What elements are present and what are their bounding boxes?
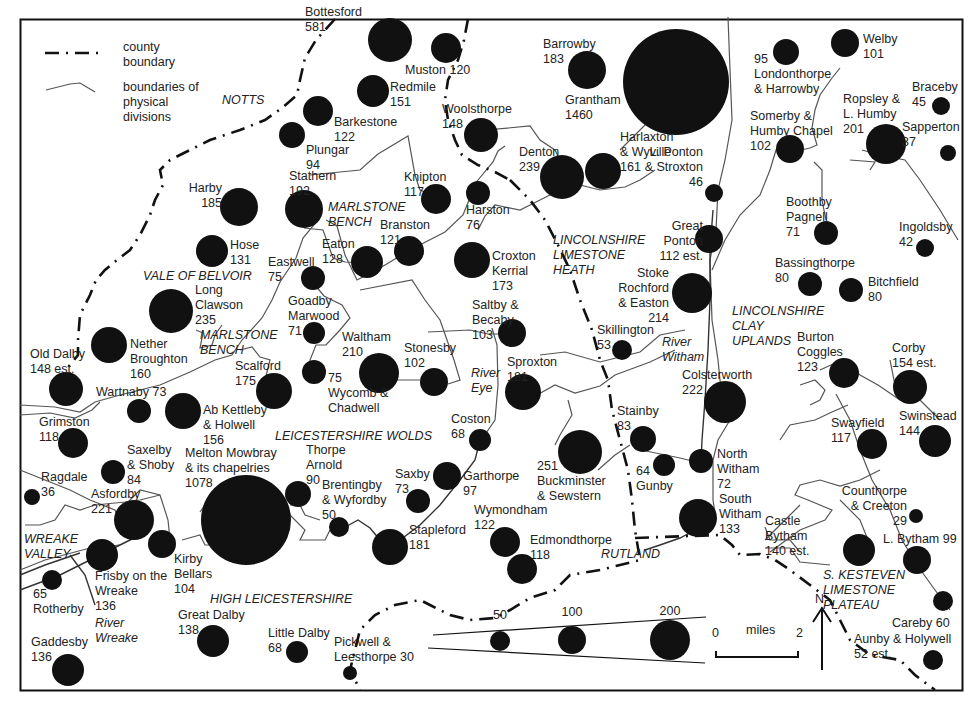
place-label-brentingby-wyfordby: Brentingby& Wyfordby50	[322, 478, 387, 522]
place-label-kirby-bellars: KirbyBellars104	[174, 552, 212, 596]
place-circle-l-ponton-stroxton	[705, 184, 723, 202]
place-circle-knipton	[421, 184, 451, 214]
place-circle-colsterworth	[704, 381, 746, 423]
place-label-redmile: Redmile151	[390, 80, 436, 109]
place-label-north-witham: NorthWitham72	[717, 447, 759, 491]
place-circle-woolsthorpe	[464, 118, 498, 152]
place-circle-redmile	[357, 75, 389, 107]
place-circle-saxelby-shoby	[101, 460, 125, 484]
place-label-careby: Careby 60	[892, 616, 950, 630]
place-label-l-bytham: L. Bytham 99	[883, 532, 957, 546]
distance-scale-bar	[716, 651, 798, 657]
place-circle-gunby	[653, 454, 675, 476]
distance-scale-start: 0	[712, 626, 719, 640]
place-label-hose: Hose131	[230, 238, 259, 267]
place-circle-ragdale	[24, 489, 40, 505]
place-circle-harston	[466, 181, 490, 205]
place-circle-north-witham	[689, 449, 713, 473]
region-label-lincolnshire-limestone-heath: LINCOLNSHIRELIMESTONEHEATH	[553, 233, 646, 277]
place-circle-skillington	[612, 340, 632, 360]
place-label-croxton-kerrial: CroxtonKerrial173	[492, 249, 536, 293]
region-label-rutland: RUTLAND	[601, 547, 660, 561]
region-label-river-wreake: RiverWreake	[95, 616, 138, 645]
place-circle-welby	[831, 29, 859, 57]
place-label-long-clawson: LongClawson235	[195, 283, 243, 327]
place-circle-somerby-humby-chapel	[776, 135, 804, 163]
place-circle-burton-coggles	[829, 358, 859, 388]
place-circle-bottesford	[368, 18, 412, 62]
place-label-bitchfield: Bitchfield80	[868, 275, 919, 304]
place-circle-corby	[893, 370, 927, 404]
region-label-s-kesteven: S. KESTEVENLIMESTONEPLATEAU	[823, 568, 906, 612]
place-circle-nether-broughton	[91, 327, 127, 363]
place-circle-goadby-marwood	[303, 322, 325, 344]
place-circle-harby	[220, 188, 258, 226]
place-label-plungar: Plungar94	[306, 143, 349, 172]
place-label-stapleford: Stapleford181	[409, 523, 466, 552]
place-circle-buckminster-sewstern	[558, 430, 602, 474]
place-label-rotherby: 65Rotherby	[33, 587, 84, 616]
place-label-sapperton: Sapperton37	[902, 120, 960, 149]
population-scale-key: 50100200	[428, 604, 706, 663]
place-circle-kirby-bellars	[148, 530, 176, 558]
place-circle-eaton	[351, 246, 383, 278]
place-circle-old-dalby	[49, 372, 83, 406]
region-label-notts: NOTTS	[222, 93, 265, 107]
place-circle-plungar	[279, 122, 305, 148]
place-circle-bitchfield	[839, 278, 863, 302]
place-label-wartnaby: Wartnaby 73	[96, 385, 166, 399]
place-circle-counthorpe-creeton	[909, 509, 923, 523]
place-circle-grimston	[58, 428, 88, 458]
legend: countyboundary boundaries ofphysicaldivi…	[45, 40, 199, 124]
place-circle-harlaxton-wyville	[585, 153, 621, 189]
place-label-harston: Harston76	[466, 203, 510, 232]
scale-key-circle-200	[650, 620, 690, 660]
place-label-great-ponton: GreatPonton112 est.	[659, 219, 703, 263]
place-circle-careby	[933, 591, 953, 611]
place-circle-garthorpe	[433, 462, 461, 490]
place-label-welby: Welby101	[863, 32, 898, 61]
place-label-south-witham: SouthWitham133	[719, 492, 761, 536]
place-label-edmondthorpe: Edmondthorpe118	[530, 533, 612, 562]
place-label-old-dalby: Old Dalby148 est.	[30, 347, 86, 376]
place-circle-saxby	[406, 489, 430, 513]
place-circle-great-dalby	[197, 625, 229, 657]
place-circle-swayfield	[857, 429, 887, 459]
place-label-saxelby-shoby: Saxelby& Shoby84	[127, 443, 175, 487]
place-label-stoke-rochford-easton: StokeRochford& Easton214	[618, 266, 669, 325]
place-circle-eastwell	[301, 266, 325, 290]
population-map: countyboundary boundaries ofphysicaldivi…	[0, 0, 979, 712]
place-circle-l-bytham	[903, 546, 931, 574]
place-circle-ropsley-l-humby	[866, 124, 906, 164]
distance-scale-unit: miles	[746, 623, 775, 637]
place-label-l-ponton-stroxton: L. Ponton& Stroxton46	[645, 145, 703, 189]
place-circle-stonesby	[420, 368, 448, 396]
distance-scale: 0 miles 2	[712, 623, 803, 657]
place-circle-croxton-kerrial	[454, 242, 490, 278]
place-circle-barrowby	[568, 51, 606, 89]
place-circle-aunby-holywell	[923, 650, 943, 670]
scale-key-circle-50	[490, 631, 510, 651]
region-labels: NOTTSMARLSTONEBENCHVALE OF BELVOIRMARLST…	[24, 93, 906, 645]
place-circle-braceby	[932, 97, 950, 115]
place-circle-wartnaby	[127, 399, 151, 423]
place-circle-gaddesby	[52, 654, 84, 686]
scale-key-label-50: 50	[493, 608, 507, 622]
region-label-high-leicestershire: HIGH LEICESTERSHIRE	[210, 592, 353, 606]
region-label-river-witham: RiverWitham	[662, 335, 704, 364]
region-label-marlstone-bench-2: MARLSTONEBENCH	[200, 328, 278, 357]
place-circle-muston	[431, 33, 461, 63]
place-circle-barkestone	[303, 96, 333, 126]
place-circle-stoke-rochford-easton	[672, 273, 712, 313]
place-label-ab-kettleby-holwell: Ab Kettleby& Holwell156	[203, 403, 268, 447]
place-circle-melton-mowbray-its-chapelries	[201, 475, 291, 565]
distance-scale-end: 2	[796, 626, 803, 640]
scale-key-label-200: 200	[660, 604, 681, 618]
place-circle-frisby-on-the-wreake	[86, 539, 118, 571]
place-circle-pickwell-leesthorpe	[343, 666, 357, 680]
place-label-stonesby: Stonesby102	[404, 341, 457, 370]
place-circle-hose	[196, 235, 228, 267]
place-circle-south-witham	[679, 499, 717, 537]
place-label-corby: Corby154 est.	[892, 341, 936, 370]
legend-physical-text: boundaries ofphysicaldivisions	[123, 80, 199, 124]
